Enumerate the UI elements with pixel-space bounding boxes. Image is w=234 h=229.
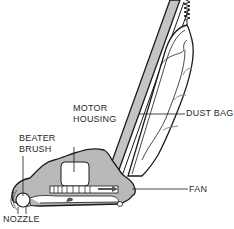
fan bbox=[50, 186, 118, 193]
motor-housing bbox=[61, 162, 89, 186]
label-dust-bag: DUST BAG bbox=[186, 108, 233, 119]
label-fan: FAN bbox=[189, 184, 207, 195]
label-motor-housing-line1: MOTOR bbox=[73, 103, 107, 114]
label-motor-housing-line2: HOUSING bbox=[73, 114, 116, 125]
vacuum-diagram: MOTOR HOUSING DUST BAG BEATER BRUSH FAN … bbox=[0, 0, 234, 229]
label-beater-brush-line2: BRUSH bbox=[19, 144, 52, 155]
spring bbox=[184, 0, 190, 25]
label-beater-brush-line1: BEATER bbox=[19, 133, 56, 144]
label-nozzle: NOZZLE bbox=[3, 214, 40, 225]
